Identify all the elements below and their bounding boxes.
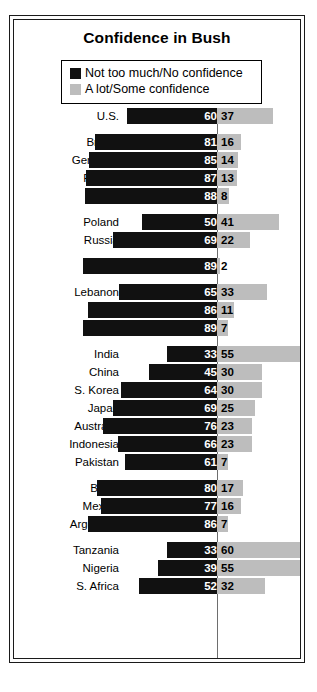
- table-row: Indonesia6623: [14, 436, 300, 452]
- bar-group-asia: India3355China4530S. Korea6430Japan6925A…: [14, 346, 300, 470]
- table-row: Japan6925: [14, 400, 300, 416]
- country-label: Lebanon: [14, 284, 119, 300]
- country-label: S. Africa: [14, 578, 119, 594]
- country-label: China: [14, 364, 119, 380]
- table-row: Nigeria3955: [14, 560, 300, 576]
- table-row: Brazil8017: [14, 480, 300, 496]
- value-no-confidence: 33: [167, 346, 219, 362]
- bar-group-africa: Tanzania3360Nigeria3955S. Africa5232: [14, 542, 300, 594]
- bar-group-eastern-europe: Poland5041Russia6922: [14, 214, 300, 248]
- value-no-confidence: 69: [113, 232, 219, 248]
- value-some-confidence: 16: [218, 498, 234, 514]
- table-row: Spain888: [14, 188, 300, 204]
- country-label: Pakistan: [14, 454, 119, 470]
- value-some-confidence: 22: [218, 232, 234, 248]
- value-some-confidence: 55: [218, 346, 234, 362]
- value-some-confidence: 7: [218, 320, 227, 336]
- table-row: Germany8514: [14, 152, 300, 168]
- bar-group-western-europe: Britain8116Germany8514France8713Spain888: [14, 134, 300, 204]
- country-label: Tanzania: [14, 542, 119, 558]
- value-some-confidence: 7: [218, 516, 227, 532]
- value-no-confidence: 77: [101, 498, 219, 514]
- value-some-confidence: 60: [218, 542, 234, 558]
- country-label: S. Korea: [14, 382, 119, 398]
- value-no-confidence: 89: [83, 320, 219, 336]
- value-no-confidence: 89: [83, 258, 219, 274]
- value-no-confidence: 80: [97, 480, 219, 496]
- value-some-confidence: 37: [218, 108, 234, 124]
- value-some-confidence: 7: [218, 454, 227, 470]
- value-no-confidence: 39: [158, 560, 219, 576]
- value-some-confidence: 41: [218, 214, 234, 230]
- table-row: China4530: [14, 364, 300, 380]
- value-no-confidence: 65: [119, 284, 219, 300]
- value-no-confidence: 61: [125, 454, 219, 470]
- table-row: Lebanon6533: [14, 284, 300, 300]
- value-some-confidence: 55: [218, 560, 234, 576]
- table-row: Pakistan617: [14, 454, 300, 470]
- value-some-confidence: 23: [218, 418, 234, 434]
- value-no-confidence: 85: [89, 152, 219, 168]
- value-some-confidence: 16: [218, 134, 234, 150]
- legend-swatch-icon: [70, 84, 81, 95]
- value-no-confidence: 81: [95, 134, 219, 150]
- table-row: Tanzania3360: [14, 542, 300, 558]
- table-row: Britain8116: [14, 134, 300, 150]
- value-some-confidence: 32: [218, 578, 234, 594]
- legend-item-no_confidence: Not too much/No confidence: [70, 66, 261, 81]
- value-no-confidence: 45: [149, 364, 219, 380]
- country-label: Poland: [14, 214, 119, 230]
- value-no-confidence: 50: [142, 214, 219, 230]
- chart-frame: Confidence in Bush Not too much/No confi…: [9, 15, 305, 663]
- value-some-confidence: 8: [218, 188, 227, 204]
- value-some-confidence: 30: [218, 382, 234, 398]
- country-label: Japan: [14, 400, 119, 416]
- value-no-confidence: 66: [118, 436, 219, 452]
- bar-group-turkey: Turkey892: [14, 258, 300, 274]
- bar-group-united-states: U.S.6037: [14, 108, 300, 124]
- country-label: Russia: [14, 232, 119, 248]
- value-some-confidence: 30: [218, 364, 234, 380]
- value-some-confidence: 33: [218, 284, 234, 300]
- country-label: Indonesia: [14, 436, 119, 452]
- value-some-confidence: 25: [218, 400, 234, 416]
- value-no-confidence: 76: [103, 418, 219, 434]
- value-some-confidence: 11: [218, 302, 233, 318]
- value-some-confidence: 2: [218, 258, 227, 274]
- country-label: India: [14, 346, 119, 362]
- value-some-confidence: 14: [218, 152, 234, 168]
- value-no-confidence: 86: [88, 302, 219, 318]
- value-no-confidence: 33: [167, 542, 219, 558]
- bar-group-middle-east: Lebanon6533Egypt8611Jordan897: [14, 284, 300, 336]
- legend-item-label: A lot/Some confidence: [85, 83, 209, 96]
- value-some-confidence: 23: [218, 436, 234, 452]
- table-row: Australia7623: [14, 418, 300, 434]
- legend-item-label: Not too much/No confidence: [85, 67, 243, 80]
- table-row: Jordan897: [14, 320, 300, 336]
- table-row: Mexico7716: [14, 498, 300, 514]
- bar-group-latin-america: Brazil8017Mexico7716Argentina867: [14, 480, 300, 532]
- chart-plot-area: U.S.6037Britain8116Germany8514France8713…: [14, 108, 300, 658]
- table-row: S. Africa5232: [14, 578, 300, 594]
- chart-legend: Not too much/No confidenceA lot/Some con…: [61, 60, 262, 104]
- country-label: Nigeria: [14, 560, 119, 576]
- value-no-confidence: 52: [139, 578, 219, 594]
- table-row: France8713: [14, 170, 300, 186]
- table-row: Argentina867: [14, 516, 300, 532]
- page-title: Confidence in Bush: [14, 29, 300, 47]
- country-label: U.S.: [14, 108, 119, 124]
- table-row: India3355: [14, 346, 300, 362]
- value-no-confidence: 69: [113, 400, 219, 416]
- value-no-confidence: 64: [121, 382, 219, 398]
- value-some-confidence: 17: [218, 480, 234, 496]
- table-row: Turkey892: [14, 258, 300, 274]
- table-row: Egypt8611: [14, 302, 300, 318]
- value-some-confidence: 13: [218, 170, 234, 186]
- table-row: S. Korea6430: [14, 382, 300, 398]
- value-no-confidence: 86: [88, 516, 219, 532]
- chart-frame-inner: Confidence in Bush Not too much/No confi…: [13, 19, 301, 659]
- value-no-confidence: 60: [127, 108, 219, 124]
- value-no-confidence: 87: [86, 170, 219, 186]
- table-row: U.S.6037: [14, 108, 300, 124]
- legend-item-some_confidence: A lot/Some confidence: [70, 82, 261, 97]
